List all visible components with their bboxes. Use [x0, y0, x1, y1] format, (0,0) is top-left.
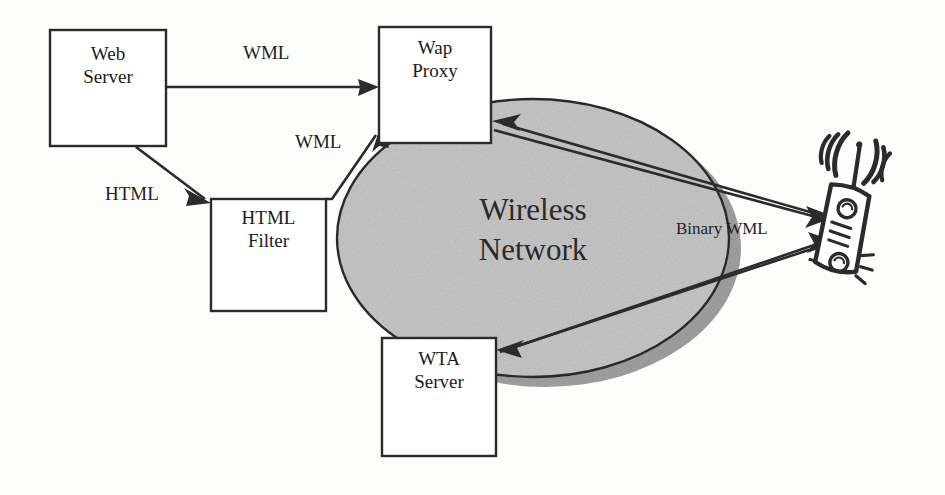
- mobile-phone-icon: [0, 0, 945, 495]
- diagram-canvas: Wireless Network: [0, 0, 945, 495]
